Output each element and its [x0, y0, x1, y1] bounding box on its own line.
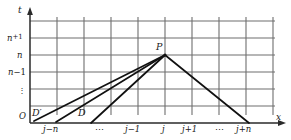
left-outer-characteristic	[34, 55, 165, 121]
vertical-gridlines	[57, 17, 273, 115]
y-tick-n-plus-1-sup: +1	[12, 33, 22, 41]
x-tick-j-plus-n: j+n	[236, 125, 251, 134]
diagram-canvas	[0, 0, 291, 140]
point-label-D-prime: D′	[32, 108, 42, 118]
x-tick-ellipsis-right: ⋯	[215, 126, 225, 135]
x-tick-j-minus-1: j−1	[125, 125, 140, 134]
t-axis-arrowhead	[27, 7, 33, 15]
x-axis-label: x	[276, 113, 281, 122]
t-axis-label: t	[18, 6, 22, 15]
x-tick-j-plus-1: j+1	[182, 125, 197, 134]
y-tick-n-minus-1-sup: −1	[13, 67, 26, 77]
point-P-marker	[163, 53, 166, 56]
characteristic-diagram-figure: t x O n+1 n n−1 ⋮ j−n ⋯ j−1 j j+1 ⋯ j+n …	[0, 0, 291, 140]
y-tick-n: n	[17, 51, 22, 60]
y-axis-vertical-ellipsis: ⋮	[18, 88, 26, 94]
y-tick-n-plus-1: n+1	[7, 34, 23, 43]
x-tick-j-minus-n: j−n	[43, 125, 58, 134]
x-tick-j: j	[162, 125, 165, 134]
origin-label: O	[19, 112, 26, 121]
x-tick-ellipsis-left: ⋯	[95, 126, 105, 135]
point-label-D: D	[78, 108, 86, 118]
point-label-P: P	[156, 42, 162, 52]
y-tick-n-minus-1: n−1	[8, 68, 26, 77]
